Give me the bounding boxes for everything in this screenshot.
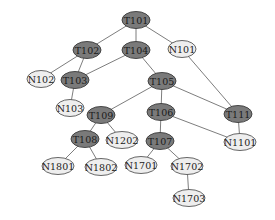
- node-label: T105: [150, 76, 174, 87]
- edge-n101-t111: [182, 49, 238, 114]
- node-label: N1703: [173, 193, 206, 204]
- node-label: T103: [63, 75, 87, 86]
- tree-diagram: T101T102T104N101N102T103T105N103T109T106…: [0, 0, 275, 220]
- node-label: N101: [169, 44, 195, 55]
- node-t102: T102: [73, 42, 101, 59]
- node-label: T109: [89, 110, 113, 121]
- node-n1202: N1202: [106, 132, 139, 149]
- node-t107: T107: [146, 133, 174, 150]
- node-t111: T111: [224, 106, 252, 123]
- node-label: N1702: [171, 161, 204, 172]
- node-n1701: N1701: [125, 157, 158, 174]
- node-n1101: N1101: [224, 134, 257, 151]
- node-label: T107: [148, 136, 172, 147]
- node-label: T108: [73, 134, 97, 145]
- node-n1801: N1801: [42, 158, 75, 175]
- node-t105: T105: [148, 73, 176, 90]
- node-n1802: N1802: [85, 159, 118, 176]
- node-label: N1101: [224, 137, 257, 148]
- node-n103: N103: [56, 100, 84, 117]
- node-label: N1801: [42, 161, 75, 172]
- node-t109: T109: [87, 107, 115, 124]
- node-n101: N101: [168, 41, 196, 58]
- node-n1702: N1702: [171, 158, 204, 175]
- node-label: T102: [75, 45, 99, 56]
- node-t108: T108: [71, 131, 99, 148]
- node-t101: T101: [122, 12, 150, 29]
- node-label: N1202: [106, 135, 139, 146]
- node-n1703: N1703: [173, 190, 206, 207]
- node-label: N1802: [85, 162, 118, 173]
- nodes-layer: T101T102T104N101N102T103T105N103T109T106…: [27, 12, 256, 207]
- node-t104: T104: [122, 42, 150, 59]
- node-label: T106: [149, 107, 173, 118]
- node-label: N103: [57, 103, 83, 114]
- node-label: T111: [226, 109, 250, 120]
- node-t103: T103: [61, 72, 89, 89]
- node-n102: N102: [27, 71, 55, 88]
- node-t106: T106: [147, 104, 175, 121]
- node-label: T104: [124, 45, 148, 56]
- node-label: N102: [28, 74, 54, 85]
- node-label: T101: [124, 15, 148, 26]
- node-label: N1701: [125, 160, 158, 171]
